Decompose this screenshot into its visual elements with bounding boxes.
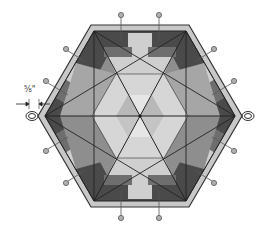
dimension-label: ⅝" (24, 85, 35, 94)
loop-right (242, 112, 254, 121)
loop-left (26, 112, 38, 121)
hexagon-quilt-diagram (0, 0, 268, 234)
